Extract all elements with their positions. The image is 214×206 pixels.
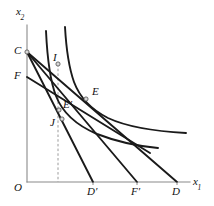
point-marker-e-prime [57,108,61,112]
indifference-curve-inner [46,31,158,148]
label-point-f-prime: F′ [131,186,140,197]
label-point-f: F [14,70,21,81]
label-point-e-prime: E′ [63,99,72,110]
label-point-i: I [53,52,57,63]
x-axis-label-subscript: 1 [198,183,202,192]
budget-line-c-to-f-prime [27,52,137,182]
y-axis-label: x2 [16,6,25,20]
point-marker-e [84,97,88,101]
label-point-d-prime: D′ [87,186,97,197]
label-point-c: C [14,45,21,56]
label-point-d: D [172,186,180,197]
indifference-curve-figure [0,0,214,206]
figure-container: x2 x1 O C F I E E′ J D′ F′ D [0,0,214,206]
budget-line-f-compensated [27,77,150,153]
point-marker-j [60,117,64,121]
label-point-j: J [50,117,55,128]
origin-label: O [14,182,22,193]
y-axis-label-subscript: 2 [21,13,25,22]
label-point-e: E [92,86,99,97]
point-marker-c [25,50,29,54]
x-axis-label: x1 [193,176,202,190]
